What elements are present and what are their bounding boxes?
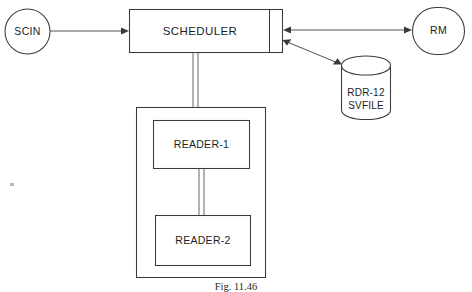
scheduler-label: SCHEDULER [163, 25, 238, 37]
rm-label: RM [430, 24, 447, 36]
scheduler-datastore-line [286, 42, 338, 64]
connector-scin-to-scheduler [50, 28, 129, 35]
node-reader2: READER-2 [156, 216, 251, 266]
node-scheduler: SCHEDULER [130, 10, 283, 53]
system-architecture-diagram: SCIN SCHEDULER RM [0, 0, 472, 292]
diagram-canvas: SCIN SCHEDULER RM [0, 0, 472, 292]
scin-scheduler-arrowhead [121, 28, 129, 35]
reader1-label: READER-1 [174, 138, 230, 150]
reader2-label: READER-2 [175, 234, 231, 246]
datastore-cylinder-top [342, 56, 391, 75]
scin-label: SCIN [14, 25, 40, 37]
node-datastore: RDR-12 SVFILE [342, 56, 391, 120]
connector-scheduler-to-datastore [283, 39, 343, 64]
scheduler-datastore-arrowhead-left [283, 39, 292, 45]
connector-scheduler-to-rm [283, 27, 412, 34]
scheduler-rm-arrowhead-left [283, 27, 291, 34]
figure-caption: Fig. 11.46 [215, 281, 258, 292]
datastore-label-line1: RDR-12 [347, 87, 385, 98]
connector-scheduler-to-reader-group [193, 53, 198, 108]
datastore-label-line2: SVFILE [348, 100, 384, 111]
scheduler-rm-arrowhead-right [404, 27, 412, 34]
scan-artifact-speck [10, 183, 14, 186]
node-rm: RM [413, 8, 465, 55]
node-scin: SCIN [5, 9, 50, 54]
node-reader1: READER-1 [154, 121, 250, 169]
